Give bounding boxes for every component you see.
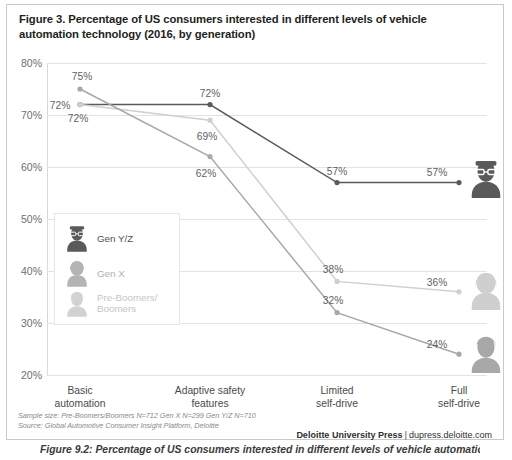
y-axis-tick-label: 50%	[21, 213, 42, 225]
legend-item[interactable]: Gen Y/Z	[64, 224, 133, 252]
source-note: Source: Global Automotive Consumer Insig…	[18, 421, 318, 431]
gridline	[47, 375, 487, 376]
sample-size-note: Sample size: Pre-Boomers/Boomers N=712 G…	[18, 411, 318, 421]
data-point-marker	[207, 154, 212, 159]
data-point-label: 24%	[427, 339, 447, 350]
data-point-marker	[456, 352, 461, 357]
x-axis-tick-label: Adaptive safetyfeatures	[175, 385, 245, 410]
data-point-label: 36%	[427, 276, 447, 287]
y-axis-tick-label: 40%	[21, 265, 42, 277]
data-point-marker	[77, 86, 82, 91]
y-axis-tick-label: 20%	[21, 369, 42, 381]
data-point-label: 32%	[323, 294, 343, 305]
data-point-marker	[456, 289, 461, 294]
avatar-man-icon	[64, 289, 90, 317]
data-point-label: 57%	[327, 165, 347, 176]
series-end-avatar	[467, 270, 505, 314]
legend-item-label: Pre-Boomers/Boomers	[97, 292, 157, 314]
data-point-marker	[334, 279, 339, 284]
legend-item-label: Gen X	[97, 268, 125, 279]
figure-title: Figure 3. Percentage of US consumers int…	[19, 12, 489, 41]
avatar-man-icon	[467, 333, 505, 373]
data-point-label: 72%	[68, 112, 88, 123]
series-end-avatar	[467, 158, 505, 202]
data-point-marker	[456, 180, 461, 185]
y-axis-tick-label: 70%	[21, 109, 42, 121]
legend-item[interactable]: Pre-Boomers/Boomers	[64, 289, 157, 317]
chart-legend: Gen Y/ZGen XPre-Boomers/Boomers	[54, 213, 180, 325]
figure-footnote: Sample size: Pre-Boomers/Boomers N=712 G…	[18, 411, 318, 432]
y-axis-tick-label: 30%	[21, 317, 42, 329]
data-point-marker	[207, 102, 212, 107]
avatar-man-glasses-icon	[467, 158, 505, 198]
y-axis-tick-label: 80%	[21, 57, 42, 69]
x-axis-tick-label: Limitedself-drive	[316, 385, 358, 410]
data-point-marker	[207, 118, 212, 123]
data-point-label: 75%	[72, 71, 92, 82]
legend-item-label: Gen Y/Z	[97, 233, 133, 244]
figure-card: Figure 3. Percentage of US consumers int…	[6, 4, 504, 440]
publisher-branding: Deloitte University Press|dupress.deloit…	[296, 430, 492, 440]
publisher-name: Deloitte University Press	[296, 430, 402, 440]
publisher-url[interactable]: dupress.deloitte.com	[409, 430, 492, 440]
series-line	[80, 105, 459, 183]
avatar-man-glasses-icon	[64, 224, 90, 252]
legend-item[interactable]: Gen X	[64, 259, 125, 287]
data-point-marker	[334, 180, 339, 185]
x-axis-tick-label: Basicautomation	[55, 385, 106, 410]
figure-caption: Figure 9.2: Percentage of US consumers i…	[40, 444, 480, 455]
y-axis-tick-label: 60%	[21, 161, 42, 173]
avatar-man-icon	[64, 289, 90, 317]
data-point-label: 38%	[323, 264, 343, 275]
series-end-avatar	[467, 333, 505, 377]
data-point-label: 69%	[197, 131, 217, 142]
data-point-label: 72%	[50, 99, 70, 110]
data-point-marker	[77, 102, 82, 107]
avatar-woman-icon	[64, 259, 90, 287]
avatar-woman-icon	[467, 270, 505, 310]
data-point-label: 72%	[200, 87, 220, 98]
avatar-woman-icon	[64, 259, 90, 287]
data-point-label: 57%	[427, 166, 447, 177]
data-point-marker	[334, 310, 339, 315]
avatar-man-glasses-icon	[64, 224, 90, 252]
data-point-label: 62%	[196, 167, 216, 178]
x-axis-tick-label: Fullself-drive	[438, 385, 480, 410]
